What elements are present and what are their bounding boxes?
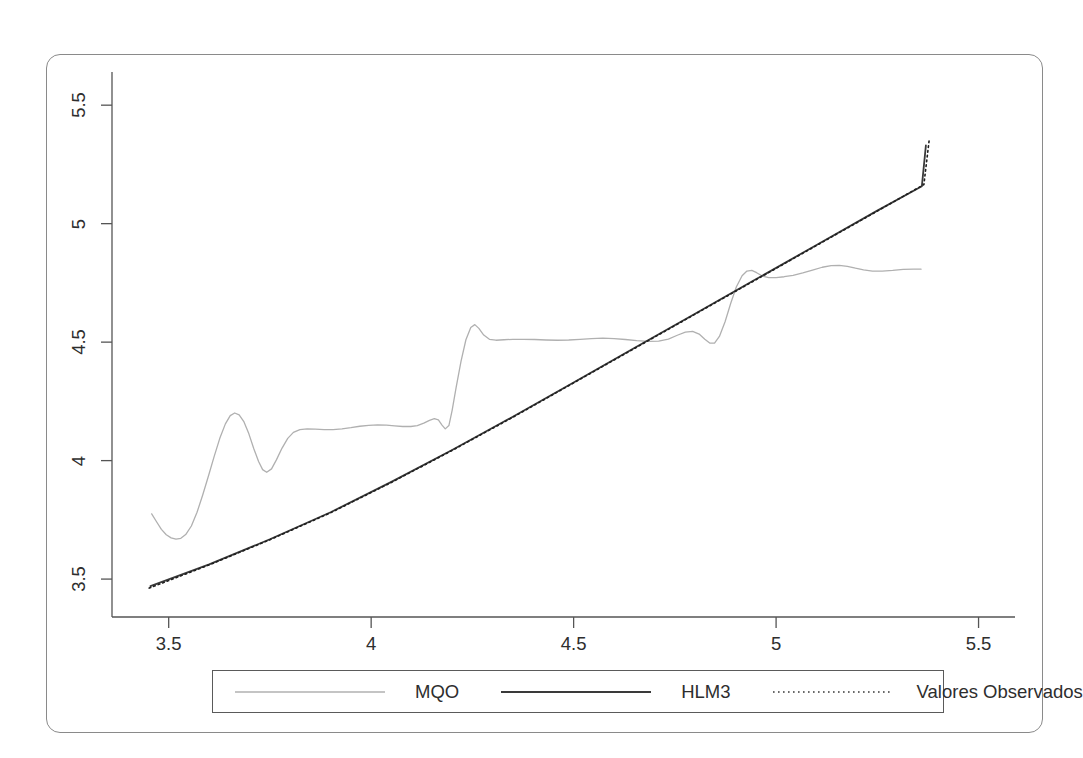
legend-line-swatch: [773, 685, 893, 699]
x-tick-label: 5: [756, 633, 796, 655]
axes-group: [112, 72, 1015, 617]
tick-marks-group: [101, 105, 979, 628]
y-tick-label: 4.5: [68, 320, 90, 364]
legend-label: Valores Observados: [917, 681, 1083, 703]
x-tick-label: 3.5: [149, 633, 189, 655]
y-tick-label: 5: [68, 202, 90, 246]
legend-entry-valores-observados[interactable]: Valores Observados: [773, 671, 1083, 712]
y-tick-label: 3.5: [68, 557, 90, 601]
series-line-mqo: [152, 265, 921, 539]
legend-line-swatch: [235, 685, 385, 699]
legend-entry-mqo[interactable]: MQO: [235, 671, 459, 712]
legend-line-swatch: [501, 685, 651, 699]
x-tick-label: 5.5: [959, 633, 999, 655]
legend-label: MQO: [415, 681, 459, 703]
series-line-valores-observados: [149, 140, 929, 588]
x-tick-label: 4.5: [554, 633, 594, 655]
data-series-group: [149, 140, 929, 588]
y-tick-label: 5.5: [68, 83, 90, 127]
series-line-hlm3: [150, 145, 925, 586]
y-tick-label: 4: [68, 439, 90, 483]
legend-label: HLM3: [681, 681, 730, 703]
x-tick-label: 4: [351, 633, 391, 655]
legend-entry-hlm3[interactable]: HLM3: [501, 671, 730, 712]
chart-legend: MQOHLM3Valores Observados: [212, 670, 944, 713]
